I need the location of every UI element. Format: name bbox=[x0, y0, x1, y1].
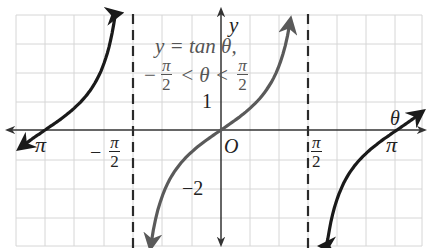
minus-sign: − bbox=[90, 141, 101, 163]
x-tick-pi: π bbox=[386, 134, 397, 156]
numerator: π bbox=[237, 57, 248, 75]
theta-axis-label: θ bbox=[390, 108, 400, 128]
denominator: 2 bbox=[238, 75, 247, 93]
fraction: π 2 bbox=[311, 134, 322, 170]
tan-right-branch bbox=[325, 114, 420, 246]
x-tick-minus-pi: π bbox=[35, 134, 46, 156]
minus-sign: − bbox=[144, 63, 156, 87]
denominator: 2 bbox=[110, 152, 119, 170]
numerator: π bbox=[161, 57, 172, 75]
y-axis-label: y bbox=[229, 15, 238, 36]
denominator: 2 bbox=[162, 75, 171, 93]
equation-line-2: − π 2 < θ < π 2 bbox=[144, 57, 248, 93]
y-tick-minus-2: −2 bbox=[182, 178, 203, 198]
denominator: 2 bbox=[312, 152, 321, 170]
x-tick-pi-over-2: π 2 bbox=[311, 134, 322, 170]
inequality: < θ < bbox=[180, 63, 229, 87]
numerator: π bbox=[311, 134, 322, 152]
equation-text: y = tan θ, bbox=[155, 34, 237, 58]
fraction-left: π 2 bbox=[161, 57, 172, 93]
tan-left-branch bbox=[22, 14, 117, 146]
x-tick-minus-pi-over-2: − π 2 bbox=[90, 134, 120, 170]
numerator: π bbox=[109, 134, 120, 152]
origin-label: O bbox=[224, 136, 238, 156]
fraction: π 2 bbox=[109, 134, 120, 170]
tangent-graph: y θ O 1 −2 π π − π 2 π 2 y = tan θ, − π … bbox=[0, 0, 431, 248]
equation-line-1: y = tan θ, bbox=[155, 36, 237, 57]
y-tick-1: 1 bbox=[202, 91, 212, 111]
fraction-right: π 2 bbox=[237, 57, 248, 93]
